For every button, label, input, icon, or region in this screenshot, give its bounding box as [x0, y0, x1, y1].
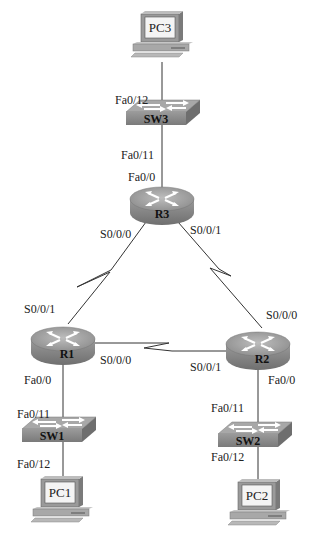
serial-link-r1-r2 [94, 343, 236, 351]
r3-label: R3 [155, 207, 170, 221]
pc2-device[interactable]: PC2 [228, 479, 290, 525]
pc3-device[interactable]: PC3 [131, 11, 193, 57]
r2-port-s0-0-0: S0/0/0 [266, 309, 297, 321]
sw3-port-fa0-12: Fa0/12 [115, 94, 148, 106]
sw2-port-fa0-11: Fa0/11 [211, 402, 244, 414]
r3-port-s0-0-0: S0/0/0 [100, 228, 131, 240]
sw3-port-fa0-11: Fa0/11 [121, 149, 154, 161]
sw1-port-fa0-11: Fa0/11 [17, 408, 50, 420]
pc1-label: PC1 [49, 485, 71, 500]
pc2-label: PC2 [246, 488, 268, 503]
sw2-device[interactable]: SW2 [218, 422, 292, 448]
r1-port-s0-0-1: S0/0/1 [24, 303, 55, 315]
r2-device[interactable]: R2 [226, 332, 290, 370]
pc1-device[interactable]: PC1 [31, 476, 93, 522]
r2-label: R2 [255, 352, 270, 366]
sw2-label: SW2 [236, 434, 261, 448]
sw3-label: SW3 [144, 112, 169, 126]
sw1-label: SW1 [40, 429, 65, 443]
r1-port-s0-0-0: S0/0/0 [100, 354, 131, 366]
r1-port-fa0-0: Fa0/0 [24, 374, 51, 386]
r3-device[interactable]: R3 [130, 187, 194, 225]
sw1-port-fa0-12: Fa0/12 [17, 458, 50, 470]
r2-port-fa0-0: Fa0/0 [268, 374, 295, 386]
r1-device[interactable]: R1 [31, 327, 95, 365]
r1-label: R1 [60, 347, 75, 361]
sw2-port-fa0-12: Fa0/12 [211, 451, 244, 463]
pc3-label: PC3 [149, 20, 171, 35]
serial-link-r3-r2 [178, 222, 262, 328]
r2-port-s0-0-1: S0/0/1 [190, 361, 221, 373]
r3-port-s0-0-1: S0/0/1 [190, 224, 221, 236]
r3-port-fa0-0: Fa0/0 [128, 171, 155, 183]
